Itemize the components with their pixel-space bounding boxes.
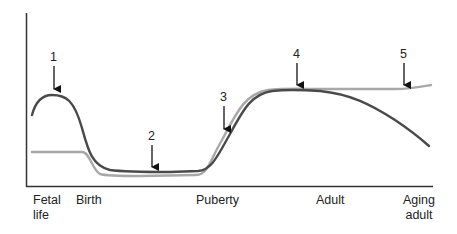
x-label-fetal-life: Fetal life	[33, 193, 61, 223]
x-label-aging-line2: adult	[403, 208, 435, 223]
marker-3-label: 3	[220, 90, 227, 104]
marker-5-label: 5	[400, 47, 407, 61]
dark-curve	[32, 90, 429, 172]
x-label-birth: Birth	[76, 193, 102, 208]
x-label-adult: Adult	[316, 193, 345, 208]
x-label-aging-adult: Aging adult	[403, 193, 435, 223]
marker-4-label: 4	[293, 47, 300, 61]
x-label-aging-line1: Aging	[403, 193, 435, 208]
marker-2-label: 2	[148, 129, 155, 143]
x-label-fetal-line1: Fetal	[33, 193, 61, 208]
x-label-fetal-line2: life	[33, 208, 61, 223]
x-label-puberty: Puberty	[196, 193, 239, 208]
marker-1-label: 1	[50, 50, 57, 64]
